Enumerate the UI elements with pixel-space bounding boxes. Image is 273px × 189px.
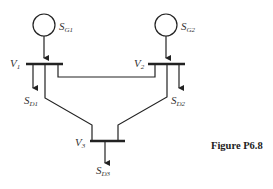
generator-sg1: SG1 [33, 14, 73, 58]
generator-circle-icon [155, 14, 177, 36]
svg-text:SD2: SD2 [171, 94, 186, 108]
svg-text:V1: V1 [10, 57, 20, 71]
generator-circle-icon [33, 14, 55, 36]
bus-v1: V1 [10, 57, 63, 71]
figure-caption: Figure P6.8 [211, 140, 263, 151]
load-sd2: SD2 [171, 64, 186, 108]
svg-text:SG1: SG1 [59, 20, 73, 34]
generator-sg2: SG2 [155, 14, 196, 58]
svg-text:V2: V2 [134, 57, 145, 71]
line-v1-v3 [45, 64, 92, 141]
svg-text:V3: V3 [75, 136, 86, 150]
svg-text:SG2: SG2 [181, 20, 196, 34]
svg-text:SD3: SD3 [96, 164, 111, 178]
power-system-diagram: SG1 SG2 V1 V2 V3 SD1 SD2 SD3 Figur [0, 0, 273, 189]
load-sd3: SD3 [96, 141, 111, 178]
load-sd1: SD1 [24, 64, 38, 108]
svg-text:SD1: SD1 [24, 94, 38, 108]
bus-v2: V2 [134, 57, 185, 71]
line-v2-v3 [118, 64, 167, 141]
